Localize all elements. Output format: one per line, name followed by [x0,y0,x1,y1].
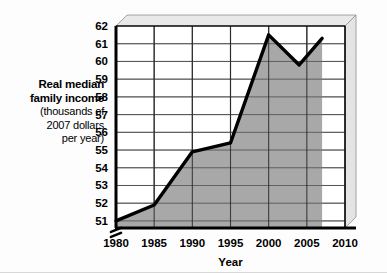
y-axis-break-icon [111,228,121,237]
panel-right-face [345,15,356,228]
x-axis-tick-labels: 1980198519901995200020052010 [103,237,358,249]
y-tick-label: 52 [95,197,108,209]
y-tick-label: 51 [95,215,108,227]
y-tick-label: 54 [95,162,108,174]
x-tick-label: 2010 [332,237,358,249]
x-tick-label: 1985 [141,237,167,249]
x-tick-label: 2005 [294,237,320,249]
y-tick-label: 60 [95,55,108,67]
y-tick-label: 58 [95,91,108,103]
y-tick-label: 61 [95,38,108,50]
y-tick-label: 56 [95,126,108,138]
y-tick-label: 53 [95,179,108,191]
chart-figure: Real median family income (thousands of … [0,0,387,273]
x-tick-label: 1990 [180,237,206,249]
y-axis-tick-labels: 515253545556575859606162 [95,20,108,227]
x-tick-label: 2000 [256,237,282,249]
y-tick-label: 55 [95,144,108,156]
y-tick-label: 57 [95,109,108,121]
x-tick-label: 1995 [218,237,244,249]
y-tick-label: 59 [95,73,108,85]
x-axis-title: Year [218,256,243,268]
panel-top-face [116,15,356,26]
chart-plot: 515253545556575859606162 198019851990199… [0,0,387,273]
y-tick-label: 62 [95,20,108,32]
x-tick-label: 1980 [103,237,129,249]
